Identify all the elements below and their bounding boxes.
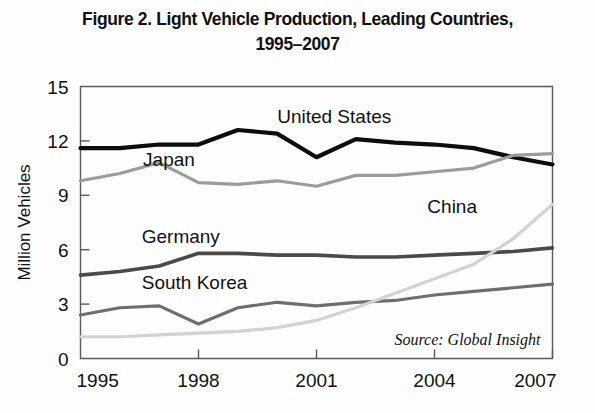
y-axis-tick-label: 12 [47,131,68,152]
x-axis-tick-label: 2007 [514,370,556,391]
line-chart-svg: 0369121519951998200120042007 United Stat… [0,0,595,413]
axes-group [81,87,553,359]
plot-frame [81,87,553,359]
y-axis-tick-label: 6 [58,240,69,261]
series-line-china [81,204,553,336]
series-label-united-states: United States [277,106,391,127]
figure-container: Figure 2. Light Vehicle Production, Lead… [0,0,595,413]
series-label-south-korea: South Korea [142,272,248,293]
series-label-japan: Japan [143,149,195,170]
plot-area: 0369121519951998200120042007 United Stat… [0,0,595,413]
y-axis-tick-label: 9 [58,185,69,206]
x-axis-tick-label: 2004 [413,370,456,391]
series-label-china: China [427,196,477,217]
source-note-group: Source: Global Insight [394,331,541,349]
y-axis-label-group: Million Vehicles [15,164,34,280]
x-axis-tick-label: 2001 [295,370,337,391]
source-note: Source: Global Insight [394,331,541,349]
y-axis-tick-label: 15 [47,77,68,98]
x-axis-tick-label: 1998 [177,370,219,391]
y-axis-tick-label: 3 [58,294,69,315]
series-labels-group: United StatesJapanGermanySouth KoreaChin… [142,106,478,293]
series-label-germany: Germany [142,226,221,247]
x-axis-tick-label: 1995 [77,370,119,391]
axis-ticks-group [81,141,553,359]
y-axis-title: Million Vehicles [15,164,34,280]
y-axis-tick-label: 0 [58,349,69,370]
